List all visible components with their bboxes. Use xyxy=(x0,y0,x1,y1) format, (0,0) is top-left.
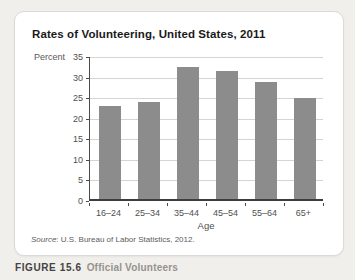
source-text: : U.S. Bureau of Labor Statistics, 2012. xyxy=(56,235,194,244)
y-tick-label: 10 xyxy=(15,155,83,165)
x-tick-label: 55–64 xyxy=(245,208,284,218)
source-word: Source xyxy=(31,235,56,244)
y-tick-mark xyxy=(86,139,89,140)
x-tick-mark xyxy=(206,203,207,206)
bar-45–54 xyxy=(216,71,238,199)
bar-65+ xyxy=(294,98,316,199)
x-tick-label: 65+ xyxy=(284,208,323,218)
figure-caption: FIGURE 15.6Official Volunteers xyxy=(15,262,178,273)
x-tick-label: 45–54 xyxy=(206,208,245,218)
bar-16–24 xyxy=(99,106,121,199)
x-tick-mark xyxy=(245,203,246,206)
y-tick-mark xyxy=(86,57,89,58)
gridline xyxy=(90,57,323,58)
gridline xyxy=(90,160,323,161)
x-tick-mark xyxy=(323,203,324,206)
x-tick-mark xyxy=(167,203,168,206)
bar-55–64 xyxy=(255,82,277,199)
figure-caption-title: Official Volunteers xyxy=(87,262,178,273)
figure-number: FIGURE 15.6 xyxy=(15,262,82,273)
gridline xyxy=(90,139,323,140)
y-tick-mark xyxy=(86,78,89,79)
y-tick-mark xyxy=(86,160,89,161)
gridline xyxy=(90,98,323,99)
bar-25–34 xyxy=(138,102,160,199)
plot-area xyxy=(89,57,323,201)
x-tick-label: 35–44 xyxy=(167,208,206,218)
x-tick-mark xyxy=(89,203,90,206)
y-tick-mark xyxy=(86,201,89,202)
gridline xyxy=(90,119,323,120)
source-note: Source: U.S. Bureau of Labor Statistics,… xyxy=(31,235,195,244)
bar-35–44 xyxy=(177,67,199,199)
chart-title: Rates of Volunteering, United States, 20… xyxy=(32,28,265,40)
gridline xyxy=(90,78,323,79)
y-tick-label: 30 xyxy=(15,73,83,83)
x-tick-label: 16–24 xyxy=(89,208,128,218)
y-tick-label: 0 xyxy=(15,196,83,206)
y-tick-label: 25 xyxy=(15,93,83,103)
x-tick-mark xyxy=(128,203,129,206)
y-tick-label: 35 xyxy=(15,52,83,62)
gridline xyxy=(90,180,323,181)
x-axis-title: Age xyxy=(89,220,323,231)
y-tick-label: 20 xyxy=(15,114,83,124)
y-tick-label: 5 xyxy=(15,175,83,185)
figure-card: Rates of Volunteering, United States, 20… xyxy=(14,11,344,256)
y-tick-mark xyxy=(86,98,89,99)
y-tick-mark xyxy=(86,119,89,120)
y-tick-label: 15 xyxy=(15,134,83,144)
y-tick-mark xyxy=(86,180,89,181)
x-tick-label: 25–34 xyxy=(128,208,167,218)
x-tick-mark xyxy=(284,203,285,206)
